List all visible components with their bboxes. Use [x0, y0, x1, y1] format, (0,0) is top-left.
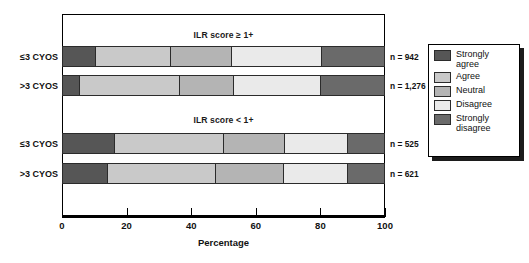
bar-segment-neutral [224, 134, 285, 153]
bar-segment-agree [80, 76, 180, 95]
x-axis-tick-label: 0 [59, 220, 64, 231]
x-axis-tick [256, 208, 257, 217]
category-label-row-3: ≤3 CYOS [0, 139, 58, 149]
bar-segment-neutral [171, 47, 233, 66]
legend-label: Disagree [456, 99, 492, 109]
n-label-row-4: n = 621 [390, 169, 419, 179]
bar-segment-agree [115, 134, 224, 153]
group-title-ilr-ge-1plus: ILR score ≥ 1+ [62, 30, 385, 40]
legend: Strongly agreeAgreeNeutralDisagreeStrong… [428, 44, 520, 157]
bar-segment-disagree [285, 134, 348, 153]
bar-row [62, 46, 385, 67]
bar-row [62, 163, 385, 184]
bar-segment-agree [96, 47, 171, 66]
category-label-row-2: >3 CYOS [0, 81, 58, 91]
bar-segment-neutral [180, 76, 234, 95]
x-axis-title: Percentage [62, 237, 385, 248]
legend-item: Strongly disagree [434, 113, 516, 134]
bar-segment-disagree [232, 47, 322, 66]
x-axis-tick [320, 208, 321, 217]
x-axis-tick-label: 60 [251, 220, 262, 231]
bar-segment-strongly-disagree [322, 47, 384, 66]
n-label-row-3: n = 525 [390, 139, 419, 149]
bar-segment-neutral [216, 164, 284, 183]
category-label-row-1: ≤3 CYOS [0, 52, 58, 62]
x-axis-tick-label: 80 [315, 220, 326, 231]
legend-label: Neutral [456, 85, 485, 95]
bar-segment-strongly-agree [63, 76, 80, 95]
bar-segment-disagree [234, 76, 322, 95]
legend-item: Strongly agree [434, 49, 516, 70]
legend-swatch [434, 86, 451, 97]
n-label-row-1: n = 942 [390, 52, 419, 62]
bar-segment-strongly-agree [63, 134, 115, 153]
legend-swatch [434, 72, 451, 83]
legend-swatch [434, 50, 451, 61]
legend-label: Strongly agree [456, 49, 489, 70]
bar-segment-disagree [284, 164, 348, 183]
bar-segment-strongly-agree [63, 47, 96, 66]
x-axis-line [62, 216, 385, 218]
n-label-row-2: n = 1,276 [390, 81, 426, 91]
likert-stacked-bar-chart: ILR score ≥ 1+ ILR score < 1+ ≤3 CYOS >3… [0, 0, 529, 263]
legend-item: Disagree [434, 99, 516, 112]
legend-label: Strongly disagree [456, 113, 491, 134]
x-axis-tick [191, 208, 192, 217]
bar-row [62, 75, 385, 96]
x-axis-tick-label: 20 [121, 220, 132, 231]
x-axis-tick-label: 100 [377, 220, 393, 231]
legend-swatch [434, 100, 451, 111]
group-title-ilr-lt-1plus: ILR score < 1+ [62, 115, 385, 125]
bar-segment-strongly-disagree [348, 164, 384, 183]
legend-swatch [434, 114, 451, 125]
legend-item: Neutral [434, 85, 516, 98]
category-label-row-4: >3 CYOS [0, 169, 58, 179]
bar-segment-strongly-agree [63, 164, 108, 183]
x-axis-tick-label: 40 [186, 220, 197, 231]
bar-row [62, 133, 385, 154]
x-axis-tick [385, 208, 386, 217]
bar-segment-strongly-disagree [348, 134, 384, 153]
x-axis-tick [62, 208, 63, 217]
bar-segment-strongly-disagree [321, 76, 384, 95]
x-axis-tick [127, 208, 128, 217]
legend-label: Agree [456, 71, 480, 81]
bar-segment-agree [108, 164, 216, 183]
legend-item: Agree [434, 71, 516, 84]
